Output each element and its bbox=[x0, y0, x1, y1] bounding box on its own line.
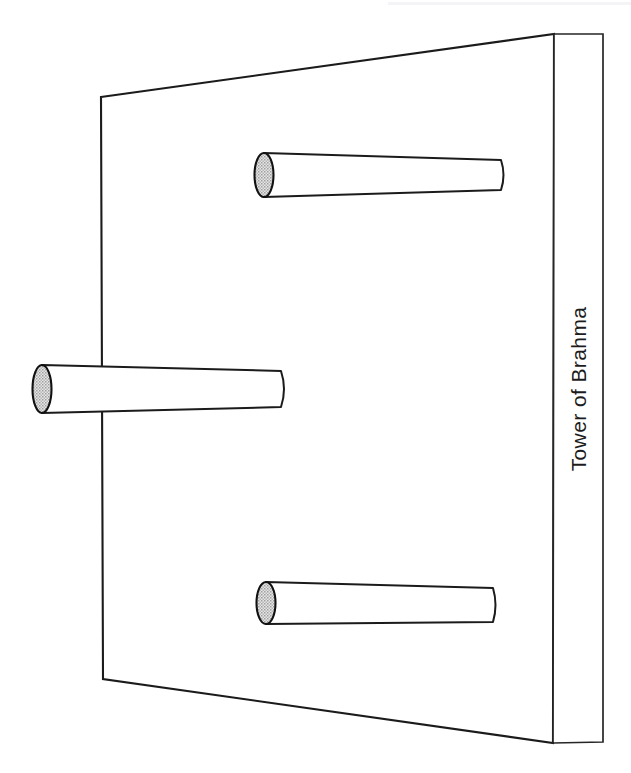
board-side-strip-face bbox=[553, 34, 603, 743]
peg-middle-end-cap bbox=[33, 365, 52, 413]
peg-middle-body bbox=[39, 365, 285, 413]
peg-top-end-cap bbox=[255, 153, 274, 197]
tower-of-brahma-drawing bbox=[0, 0, 631, 773]
tower-of-brahma-figure: Tower of Brahma bbox=[0, 0, 631, 773]
peg-middle bbox=[33, 365, 285, 413]
peg-bottom-end-cap bbox=[257, 582, 276, 624]
peg-top-body bbox=[261, 153, 504, 197]
peg-bottom-body bbox=[263, 582, 496, 624]
peg-top bbox=[255, 153, 504, 197]
peg-bottom bbox=[257, 582, 496, 624]
